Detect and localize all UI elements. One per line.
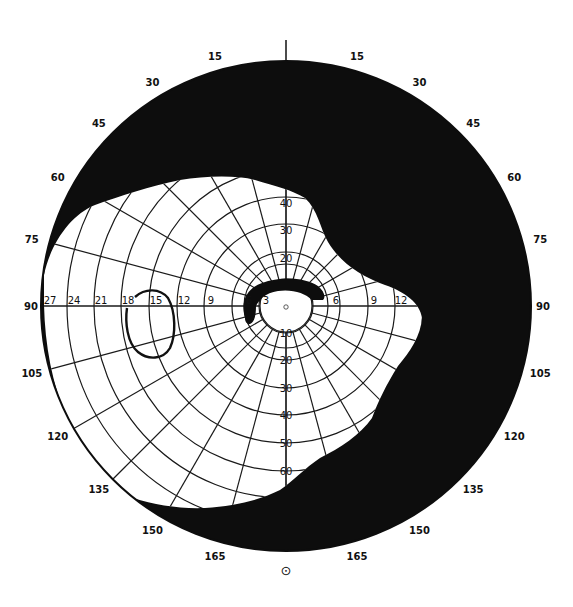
meridian-label: 105 xyxy=(21,368,42,379)
meridian-label: 165 xyxy=(205,551,226,562)
meridian-label: 165 xyxy=(347,551,368,562)
axis-label: 21 xyxy=(95,295,108,306)
meridian-label: 75 xyxy=(533,234,547,245)
meridian-label: 90 xyxy=(24,301,38,312)
meridian-label: 90 xyxy=(536,301,550,312)
meridian-label: 120 xyxy=(504,431,525,442)
axis-label: 30 xyxy=(280,383,293,394)
axis-label: 40 xyxy=(280,410,293,421)
axis-label: 60 xyxy=(280,466,293,477)
meridian-label: 60 xyxy=(51,172,65,183)
meridian-label: 150 xyxy=(142,525,163,536)
axis-label: 6 xyxy=(333,295,339,306)
meridian-label: 45 xyxy=(466,118,480,129)
axis-label: 50 xyxy=(280,438,293,449)
meridian-label: 120 xyxy=(47,431,68,442)
axis-label: 20 xyxy=(280,253,293,264)
axis-label: 20 xyxy=(280,355,293,366)
axis-label: 30 xyxy=(280,225,293,236)
axis-label: 12 xyxy=(395,295,408,306)
axis-label: 9 xyxy=(208,295,214,306)
meridian-label: 135 xyxy=(88,484,109,495)
axis-label: 9 xyxy=(371,295,377,306)
axis-label: 15 xyxy=(150,295,163,306)
axis-label: 27 xyxy=(44,295,57,306)
axis-label: 3 xyxy=(263,295,269,306)
meridian-label: 15 xyxy=(350,51,364,62)
axis-label: 18 xyxy=(122,295,135,306)
axis-label: 10 xyxy=(280,328,293,339)
visual-field-chart: 1515303045456060757590901051051201201351… xyxy=(0,0,573,607)
fixation-symbol: ⊙ xyxy=(281,563,292,578)
meridian-label: 45 xyxy=(92,118,106,129)
axis-label: 40 xyxy=(280,198,293,209)
meridian-label: 135 xyxy=(463,484,484,495)
meridian-label: 75 xyxy=(25,234,39,245)
axis-label: 6 xyxy=(246,295,252,306)
axis-label: 24 xyxy=(68,295,81,306)
meridian-label: 150 xyxy=(409,525,430,536)
meridian-label: 105 xyxy=(530,368,551,379)
meridian-label: 30 xyxy=(413,77,427,88)
axis-label: 12 xyxy=(178,295,191,306)
meridian-label: 30 xyxy=(146,77,160,88)
meridian-label: 60 xyxy=(507,172,521,183)
meridian-label: 15 xyxy=(208,51,222,62)
